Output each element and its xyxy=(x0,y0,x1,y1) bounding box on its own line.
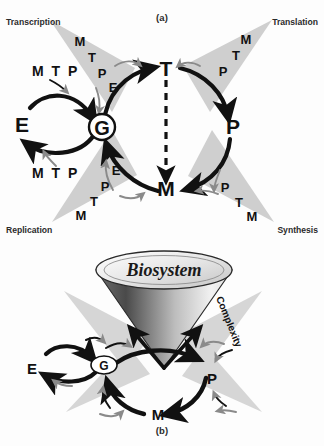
wedge-letter-tr-p: P xyxy=(219,64,228,79)
corner-label-replication: Replication xyxy=(6,225,52,235)
node-m: M xyxy=(152,406,165,423)
label-mtp-upper: M T P xyxy=(32,63,79,79)
panel-b-eg-loop xyxy=(46,346,96,381)
thin-arrow-bl-outer xyxy=(100,412,122,416)
thin-arrow-br-in xyxy=(197,191,218,194)
node-g: G xyxy=(89,114,115,140)
wedge-letter-bl-m: M xyxy=(76,208,87,223)
wedge-translation xyxy=(183,20,272,112)
panel-a: M T P E M T P E P T M P T M M T P M T P xyxy=(0,0,324,240)
eg-loop-arrows xyxy=(27,96,94,153)
wedge-letter-tl-t: T xyxy=(88,50,96,65)
thin-arrow-bl-in xyxy=(120,194,143,198)
svg-text:G: G xyxy=(99,359,108,373)
panel-a-caption: (a) xyxy=(0,12,324,23)
cone-top-label: Biosystem xyxy=(126,260,202,280)
node-t: T xyxy=(160,57,173,80)
node-g: G xyxy=(91,356,117,374)
svg-text:P: P xyxy=(207,370,217,387)
thin-arrow-tr-outer xyxy=(216,350,232,360)
thin-arrow-br-outer xyxy=(218,410,236,412)
svg-text:G: G xyxy=(94,117,110,139)
svg-text:P: P xyxy=(226,115,240,138)
wedge-letter-tl-p: P xyxy=(98,66,107,81)
arrow-g-to-e xyxy=(27,135,94,153)
figure-root: M T P E M T P E P T M P T M M T P M T P xyxy=(0,0,324,446)
wedge-letter-bl-e: E xyxy=(112,163,121,178)
node-p: P xyxy=(207,370,217,387)
node-p: P xyxy=(226,115,240,138)
wedge-letter-br-p: P xyxy=(221,180,230,195)
node-e: E xyxy=(27,360,37,377)
wedge-letter-tr-m: M xyxy=(241,32,252,47)
panel-b: Biosystem Complexity xyxy=(0,238,324,446)
svg-text:E: E xyxy=(15,113,29,136)
node-e: E xyxy=(15,113,29,136)
wedge-letter-br-t: T xyxy=(235,195,243,210)
node-m: M xyxy=(157,177,175,200)
corner-label-synthesis: Synthesis xyxy=(277,225,318,235)
panel-b-svg: Biosystem Complexity xyxy=(0,238,324,446)
wedge-letter-tr-t: T xyxy=(232,48,240,63)
wedge-letter-bl-p: P xyxy=(101,179,110,194)
wedge-letter-bl-t: T xyxy=(90,194,98,209)
svg-text:T: T xyxy=(160,57,173,80)
svg-text:E: E xyxy=(27,360,37,377)
panel-a-svg: M T P E M T P E P T M P T M M T P M T P xyxy=(0,0,324,240)
svg-text:M: M xyxy=(157,177,175,200)
svg-text:M: M xyxy=(152,406,165,423)
wedge-letter-br-m: M xyxy=(247,209,258,224)
arrow-e-to-g xyxy=(46,346,92,358)
arrow-e-to-g xyxy=(30,96,93,118)
thin-arrow-mtp-upper xyxy=(50,80,67,92)
panel-b-caption: (b) xyxy=(0,425,324,436)
label-mtp-lower: M T P xyxy=(32,165,79,181)
wedge-letter-tl-m: M xyxy=(75,34,86,49)
wedge-letter-tl-e: E xyxy=(109,80,118,95)
